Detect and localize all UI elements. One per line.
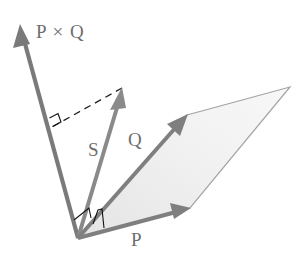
- cross-product-diagram: P × Q S Q P: [0, 0, 300, 263]
- vector-p-cross-q: [13, 24, 78, 238]
- arrowhead-icon: [13, 24, 30, 48]
- label-p: P: [131, 230, 142, 249]
- right-angle-marker-projection: [50, 114, 62, 127]
- parallelogram: [78, 87, 290, 238]
- label-q: Q: [128, 130, 142, 149]
- label-s: S: [88, 140, 99, 159]
- label-p-cross-q: P × Q: [36, 22, 85, 41]
